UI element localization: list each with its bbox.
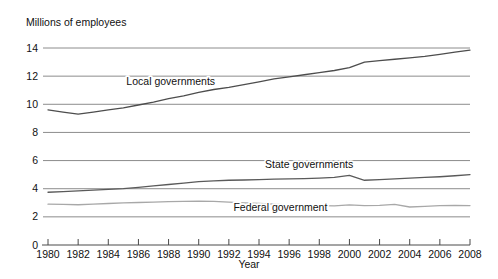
series-label: Federal government (233, 201, 327, 213)
y-axis-tick-label: 6 (32, 154, 38, 166)
y-axis-tick-labels: 02468101214 (26, 42, 38, 251)
y-axis-tick-label: 14 (26, 42, 38, 54)
y-axis-tick-label: 4 (32, 182, 38, 194)
chart-container: Millions of employees 02468101214 198019… (0, 0, 498, 279)
series-label: Local governments (126, 75, 215, 87)
y-axis-tick-label: 2 (32, 210, 38, 222)
y-axis-tick-label: 10 (26, 98, 38, 110)
line-chart-plot: 02468101214 1980198219841986198819901992… (0, 0, 498, 279)
series-label: State governments (265, 158, 353, 170)
x-axis-line-and-ticks (42, 239, 470, 245)
series-line (48, 175, 470, 193)
y-axis-tick-label: 8 (32, 126, 38, 138)
gridlines-group (43, 48, 470, 217)
x-axis-title: Year (0, 258, 498, 270)
y-axis-tick-label: 12 (26, 70, 38, 82)
series-inline-labels: Local governmentsLocal governmentsState … (126, 75, 353, 212)
data-series-group (48, 50, 470, 207)
